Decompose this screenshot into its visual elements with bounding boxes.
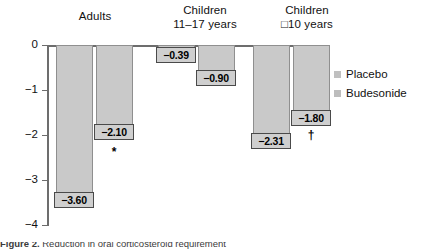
tick-label-minus-1: −1 (6, 83, 38, 95)
group-label-children-under-10: Children □10 years (252, 4, 362, 31)
tick-4 (42, 225, 47, 226)
tick-label-minus-3: −3 (6, 173, 38, 185)
legend: Placebo Budesonide (334, 66, 407, 104)
legend-swatch-placebo (334, 71, 341, 78)
plot-area: Adults Children 11–17 years Children □10… (0, 0, 436, 250)
tick-2 (42, 135, 47, 136)
tick-label-0: 0 (6, 38, 38, 50)
significance-mark-dagger: † (291, 129, 331, 141)
figure-caption-prefix: Figure 2. (0, 242, 40, 249)
legend-item-budesonide: Budesonide (334, 85, 407, 101)
tick-label-minus-4: −4 (6, 218, 38, 230)
legend-label-placebo: Placebo (346, 68, 388, 80)
significance-mark-asterisk: * (94, 146, 134, 158)
tick-0 (42, 45, 47, 46)
bar-chart: Adults Children 11–17 years Children □10… (0, 0, 436, 250)
legend-item-placebo: Placebo (334, 66, 407, 82)
value-label-children-11-17-placebo: −0.39 (156, 47, 196, 63)
value-label-children-under-10-budesonide: −1.80 (291, 110, 331, 126)
legend-label-budesonide: Budesonide (346, 87, 407, 99)
tick-3 (42, 180, 47, 181)
figure-caption: Figure 2. Reduction in oral corticostero… (0, 242, 436, 250)
tick-label-minus-2: −2 (6, 128, 38, 140)
tick-1 (42, 90, 47, 91)
value-label-adults-placebo: −3.60 (54, 192, 94, 208)
value-label-children-11-17-budesonide: −0.90 (196, 70, 236, 86)
group-label-children-11-17: Children 11–17 years (150, 4, 260, 31)
figure-caption-text: Reduction in oral corticosteroid require… (42, 242, 226, 249)
legend-swatch-budesonide (334, 90, 341, 97)
group-label-adults: Adults (40, 10, 150, 24)
y-axis-line (47, 45, 49, 226)
value-label-children-under-10-placebo: −2.31 (251, 133, 291, 149)
bar-adults-placebo (56, 45, 93, 207)
value-label-adults-budesonide: −2.10 (94, 124, 134, 140)
